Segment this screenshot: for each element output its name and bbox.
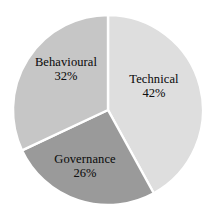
pie-label-technical-value: 42% [113, 86, 195, 100]
pie-chart-svg [0, 0, 207, 221]
pie-label-technical: Technical 42% [113, 72, 195, 100]
pie-label-technical-name: Technical [113, 72, 195, 86]
pie-chart: Technical 42% Behavioural 32% Governance… [0, 0, 207, 221]
pie-label-behavioural: Behavioural 32% [16, 55, 116, 83]
pie-label-governance-name: Governance [33, 152, 137, 166]
pie-label-behavioural-name: Behavioural [16, 55, 116, 69]
pie-label-governance-value: 26% [33, 166, 137, 180]
pie-label-behavioural-value: 32% [16, 69, 116, 83]
pie-label-governance: Governance 26% [33, 152, 137, 180]
